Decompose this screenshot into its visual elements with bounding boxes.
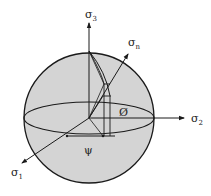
sigma1-equator-point: [66, 135, 68, 137]
sigman-label: σn: [128, 36, 141, 51]
sigma2-label: σ2: [191, 112, 203, 127]
sigma3-label: σ3: [85, 8, 97, 23]
phi-angle-label: Ø: [119, 106, 128, 119]
base-point: [102, 135, 105, 138]
diagram-canvas: σ3 σn σ2 σ1 ψ Ø: [0, 0, 211, 196]
psi-angle-label: ψ: [84, 144, 93, 157]
sigma1-label: σ1: [11, 166, 23, 181]
stress-sphere-diagram: σ3 σn σ2 σ1 ψ Ø: [0, 0, 211, 196]
